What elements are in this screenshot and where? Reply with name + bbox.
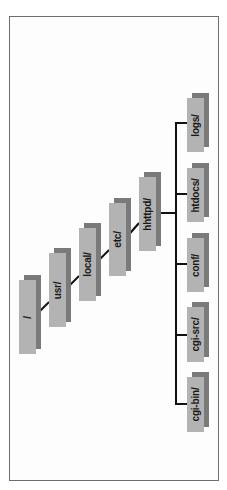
node-label: cgi-src/ — [190, 318, 201, 352]
node-face: conf/ — [187, 238, 204, 292]
node-label: logs/ — [190, 114, 201, 136]
node-label: cgi-bin/ — [190, 388, 201, 422]
node-face: htdocs/ — [187, 168, 204, 222]
node-label: hhttpd/ — [142, 198, 153, 230]
node-face: etc/ — [109, 203, 126, 276]
node-face: / — [19, 280, 36, 354]
connector-branch-cgi-bin — [175, 403, 187, 405]
node-face: cgi-bin/ — [187, 377, 204, 432]
node-face: usr/ — [49, 253, 66, 327]
connector-branch-logs — [175, 122, 187, 124]
node-face: local/ — [79, 228, 96, 301]
connector-branch-cgi-src — [175, 334, 187, 336]
node-label: / — [22, 316, 33, 319]
node-label: conf/ — [190, 254, 201, 277]
connector-branch-htdocs — [175, 193, 187, 195]
node-label: etc/ — [112, 231, 123, 247]
node-face: hhttpd/ — [139, 177, 156, 251]
node-label: local/ — [82, 252, 93, 276]
node-label: htdocs/ — [190, 178, 201, 212]
connector-branch-conf — [175, 263, 187, 265]
node-face: cgi-src/ — [187, 307, 204, 362]
node-face: logs/ — [187, 98, 204, 152]
node-label: usr/ — [52, 281, 63, 299]
